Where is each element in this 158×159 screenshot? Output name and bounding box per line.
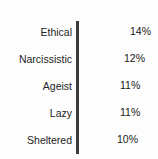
bar-value-label: 10% <box>117 133 138 145</box>
bar-value-label: 11% <box>120 106 140 118</box>
bar-track <box>78 78 116 91</box>
plot-area: Ethical 14% Narcissistic 12% Ageist 11% … <box>0 19 158 157</box>
bar-row: Narcissistic 12% <box>0 49 158 76</box>
bar-category-label: Narcissistic <box>0 53 72 65</box>
bar-track <box>78 132 113 145</box>
bar-row: Lazy 11% <box>0 103 158 130</box>
chart-title: Bottom 5 Characteristics <box>0 0 158 1</box>
bar-track <box>78 24 128 37</box>
bar-value-label: 11% <box>120 79 140 91</box>
bar-track <box>78 105 116 118</box>
bar-value-label: 14% <box>130 25 151 37</box>
bar-row: Sheltered 10% <box>0 130 158 157</box>
bar-track <box>78 51 120 64</box>
bar-value-label: 12% <box>124 52 145 64</box>
bar-category-label: Lazy <box>0 107 72 119</box>
bar-chart-figure: Bottom 5 Characteristics Ethical 14% Nar… <box>0 0 158 159</box>
bar-row: Ageist 11% <box>0 76 158 103</box>
bar-category-label: Sheltered <box>0 134 72 146</box>
bar-category-label: Ethical <box>0 26 72 38</box>
bar-category-label: Ageist <box>0 80 72 92</box>
bar-row: Ethical 14% <box>0 22 158 49</box>
